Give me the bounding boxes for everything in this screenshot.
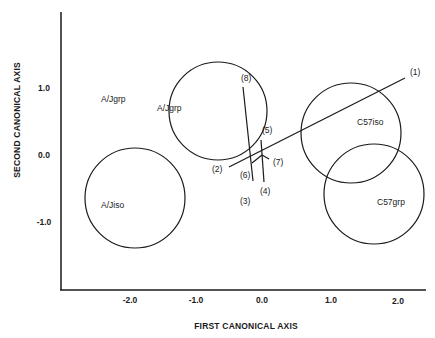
vector-label: (1) (410, 67, 421, 77)
group-label: A/Jgrp (101, 94, 126, 104)
group-circle-c57iso (301, 83, 401, 183)
y-tick-label: -1.0 (37, 217, 52, 227)
group-label: C57grp (377, 197, 405, 207)
vector-label: (6) (240, 170, 251, 180)
x-tick-label: -2.0 (123, 295, 138, 305)
group-label: A/Jgrp (157, 103, 182, 113)
vector-line-7 (262, 155, 269, 159)
vector-label: (3) (240, 196, 251, 206)
x-tick-label: 0.0 (256, 295, 268, 305)
group-circle-c57grp (324, 144, 424, 244)
canonical-plot: 1.0 0.0 -1.0 -2.0 -1.0 0.0 1.0 2.0 FIRST… (0, 0, 435, 338)
vector-line-6 (252, 155, 262, 163)
vector-label: (7) (273, 157, 284, 167)
vector-group (229, 78, 405, 182)
y-tick-label: 0.0 (38, 150, 50, 160)
y-tick-label: 1.0 (38, 83, 50, 93)
x-tick-label: 1.0 (325, 295, 337, 305)
y-axis-title: SECOND CANONICAL AXIS (12, 62, 22, 178)
vector-label: (4) (260, 186, 271, 196)
vector-label: (2) (212, 164, 223, 174)
group-label: A/Jiso (101, 200, 124, 210)
vector-line-5-4 (261, 140, 264, 182)
x-tick-label: -1.0 (189, 295, 204, 305)
vector-line-8-3 (243, 87, 253, 181)
group-label: C57iso (357, 117, 384, 127)
vector-label: (8) (241, 73, 252, 83)
x-axis-title: FIRST CANONICAL AXIS (194, 321, 298, 331)
group-circle-ajiso (85, 148, 185, 248)
x-tick-label: 2.0 (392, 296, 404, 306)
group-circle-ajgrp (169, 62, 267, 160)
vector-label: (5) (262, 125, 273, 135)
